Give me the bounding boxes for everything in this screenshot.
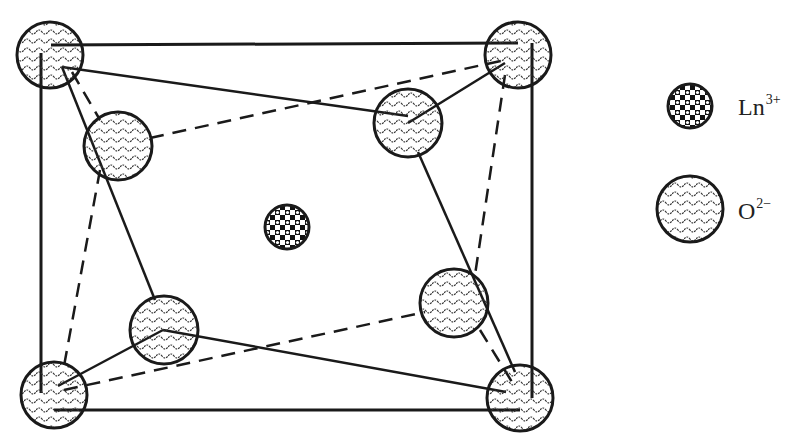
- oxygen-ion-inner-lower-left: [130, 296, 198, 364]
- legend-o-label: O2−: [738, 196, 771, 225]
- oxygen-ion-corner-top-left: [17, 22, 83, 88]
- legend-o-symbol: [657, 176, 723, 242]
- oxygen-ion-corner-bottom-left: [21, 362, 87, 428]
- legend-o-charge: 2−: [756, 196, 771, 211]
- oxygen-ion-inner-upper-right: [374, 89, 442, 157]
- oxygen-ion-corner-top-right: [485, 22, 551, 88]
- oxygen-ion-inner-lower-right: [420, 269, 488, 337]
- legend-ln-symbol-text: Ln: [738, 94, 765, 120]
- lanthanide-ion-center: [265, 205, 309, 249]
- oxygen-ion-corner-bottom-right: [487, 365, 553, 431]
- legend-ln-symbol: [668, 84, 712, 128]
- legend-ln-charge: 3+: [766, 92, 781, 107]
- legend: [657, 84, 723, 242]
- crystal-structure-diagram: [0, 0, 801, 445]
- legend-ln-label: Ln3+: [738, 92, 781, 121]
- oxygen-ion-inner-upper-left: [84, 112, 152, 180]
- legend-o-symbol-text: O: [738, 198, 755, 224]
